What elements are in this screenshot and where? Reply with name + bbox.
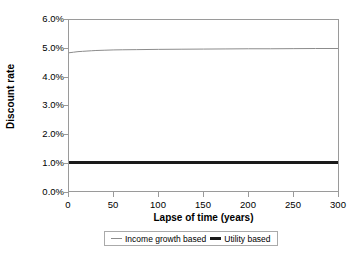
x-tick-mark-0 [68,192,69,197]
legend-entry-income-growth-based: Income growth based [109,234,208,244]
y-axis-title-label: Discount rate [6,63,17,128]
y-tick-label-4: 4.0% [20,72,64,82]
legend-label-income-growth-based: Income growth based [125,234,206,244]
x-tick-mark-300 [338,192,339,197]
y-tick-label-6: 6.0% [20,14,64,24]
x-tick-mark-150 [203,192,204,197]
x-tick-label-100: 100 [138,199,178,210]
y-tick-label-2: 2.0% [20,129,64,139]
x-tick-mark-100 [158,192,159,197]
legend-swatch-line-icon-income-growth-based [111,238,122,239]
x-tick-mark-250 [293,192,294,197]
x-tick-label-150: 150 [183,199,223,210]
y-axis-tick-labels: 6.0% 5.0% 4.0% 3.0% 2.0% 1.0% 0.0% [18,0,64,264]
x-axis-title: Lapse of time (years) [68,212,339,223]
y-tick-label-0: 0.0% [20,187,64,197]
series-line-income-growth-based [69,49,338,53]
x-tick-label-300: 300 [318,199,358,210]
discount-rate-line-chart: Discount rate 6.0% 5.0% 4.0% 3.0% 2.0% 1… [0,0,364,264]
x-tick-label-50: 50 [93,199,133,210]
y-tick-label-3: 3.0% [20,100,64,110]
plot-series-svg [69,20,338,191]
x-tick-label-200: 200 [228,199,268,210]
legend-entry-utility-based: Utility based [208,234,272,244]
y-tick-label-1: 1.0% [20,158,64,168]
chart-legend: Income growth based Utility based [104,231,278,246]
x-tick-label-250: 250 [273,199,313,210]
x-tick-mark-50 [113,192,114,197]
legend-swatch-line-icon-utility-based [210,237,221,240]
legend-label-utility-based: Utility based [224,234,270,244]
x-tick-label-0: 0 [48,199,88,210]
plot-area [68,19,339,192]
y-tick-label-5: 5.0% [20,43,64,53]
x-tick-mark-200 [248,192,249,197]
